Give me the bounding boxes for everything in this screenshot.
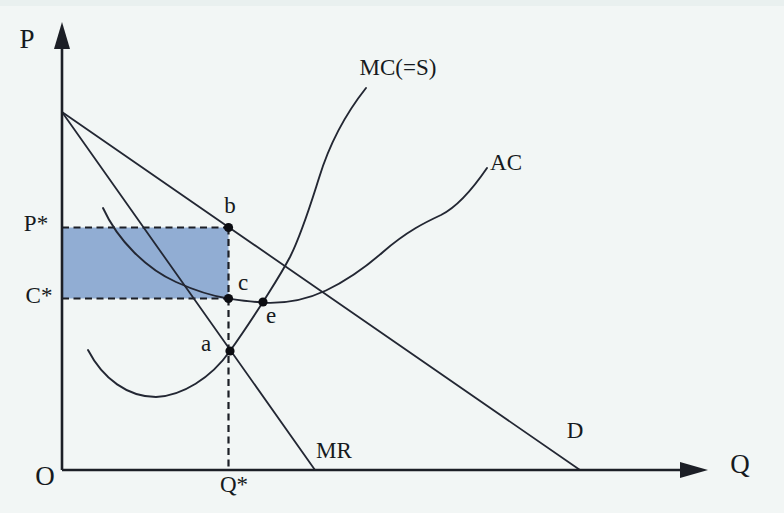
ac-label: AC xyxy=(490,150,522,175)
point-b-label: b xyxy=(224,193,236,218)
point-b xyxy=(224,223,233,232)
point-a-label: a xyxy=(201,331,211,356)
p-star-label: P* xyxy=(24,211,48,236)
p-axis-label: P xyxy=(19,24,34,54)
x-axis-arrowhead xyxy=(680,462,708,478)
mc-label: MC(=S) xyxy=(360,55,437,80)
q-star-label: Q* xyxy=(220,472,248,497)
economics-diagram-canvas: PQOP*C*Q*MC(=S)ACDMRbcea xyxy=(0,0,784,513)
d-label: D xyxy=(567,418,584,443)
scanned-figure-page: PQOP*C*Q*MC(=S)ACDMRbcea xyxy=(0,0,784,513)
point-c xyxy=(224,294,233,303)
point-e-label: e xyxy=(266,303,276,328)
point-c-label: c xyxy=(238,270,248,295)
point-a xyxy=(225,346,234,355)
mr-label: MR xyxy=(316,438,352,463)
q-axis-label: Q xyxy=(730,449,750,479)
page-scan-band xyxy=(0,0,784,6)
origin-label: O xyxy=(35,461,55,491)
c-star-label: C* xyxy=(26,283,53,308)
y-axis-arrowhead xyxy=(54,22,70,49)
